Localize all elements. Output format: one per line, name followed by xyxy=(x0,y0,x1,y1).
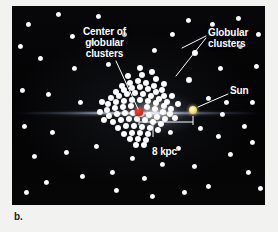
field-star xyxy=(114,188,119,193)
field-star xyxy=(44,180,49,185)
label-sun: Sun xyxy=(230,85,249,96)
field-star xyxy=(142,176,147,181)
field-star xyxy=(256,32,261,37)
field-star xyxy=(38,56,43,61)
galaxy-illustration-panel: Center of globular clusters Globular clu… xyxy=(12,6,265,205)
field-star xyxy=(250,140,255,145)
field-star xyxy=(22,124,27,129)
field-star xyxy=(218,66,223,71)
field-star xyxy=(26,22,31,27)
field-star xyxy=(210,22,215,27)
field-star xyxy=(150,194,155,199)
field-star xyxy=(182,190,187,195)
field-star xyxy=(186,18,191,23)
field-star xyxy=(246,170,251,175)
globular-cluster xyxy=(137,65,143,71)
leader-line-globular-1 xyxy=(182,36,206,48)
field-star xyxy=(56,12,61,17)
field-star xyxy=(258,186,263,191)
field-star xyxy=(168,130,173,135)
globular-cluster xyxy=(121,131,127,137)
field-star xyxy=(70,34,75,39)
field-star xyxy=(78,100,83,105)
field-star xyxy=(206,184,211,189)
field-star xyxy=(254,64,259,69)
field-star xyxy=(236,16,241,21)
field-star xyxy=(198,126,203,131)
globular-cluster xyxy=(153,76,159,82)
globular-cluster xyxy=(149,69,155,75)
field-star xyxy=(64,150,69,155)
field-star xyxy=(228,152,233,157)
field-star xyxy=(50,130,55,135)
globular-cluster xyxy=(161,81,167,87)
globular-cluster xyxy=(133,142,139,148)
field-star xyxy=(72,66,77,71)
figure-container: Center of globular clusters Globular clu… xyxy=(0,0,278,232)
globular-cluster xyxy=(141,142,147,148)
field-star xyxy=(216,134,221,139)
field-star xyxy=(106,62,111,67)
field-star xyxy=(152,48,157,53)
field-star xyxy=(242,124,247,129)
field-star xyxy=(94,144,99,149)
field-star xyxy=(110,170,115,175)
figure-caption: b. xyxy=(14,211,23,222)
field-star xyxy=(80,174,85,179)
field-star xyxy=(206,96,211,101)
field-star xyxy=(130,156,135,161)
field-star xyxy=(18,44,23,49)
field-star xyxy=(224,100,229,105)
field-star xyxy=(32,154,37,159)
globular-cluster xyxy=(127,136,133,142)
globular-cluster xyxy=(101,117,107,123)
field-star xyxy=(192,164,197,169)
field-star xyxy=(20,88,25,93)
field-star xyxy=(160,162,165,167)
globular-cluster xyxy=(139,72,145,78)
label-distance-8-kpc: 8 kpc xyxy=(152,146,177,157)
leader-line-globular-2 xyxy=(176,38,206,76)
galactic-center-marker xyxy=(135,108,142,115)
label-center-of-globular-clusters: Center of globular clusters xyxy=(83,26,126,59)
field-star xyxy=(250,100,255,105)
field-star xyxy=(96,14,101,19)
label-globular-clusters: Globular clusters xyxy=(208,27,248,49)
field-star xyxy=(220,112,225,117)
field-star xyxy=(46,92,51,97)
field-star xyxy=(24,190,29,195)
globular-cluster-labeled xyxy=(186,77,192,83)
field-star xyxy=(170,32,175,37)
globular-cluster-labeled xyxy=(192,50,198,56)
globular-cluster xyxy=(125,73,131,79)
